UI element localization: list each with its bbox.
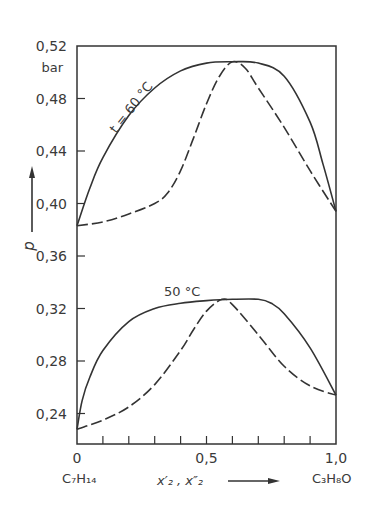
curve-60c-vapour <box>77 61 336 225</box>
y-tick-label: 0,40 <box>36 196 67 212</box>
y-tick-label: 0,48 <box>36 91 67 107</box>
y-tick-label: 0,52 <box>36 38 67 54</box>
y-unit-label: bar <box>41 60 63 75</box>
x-axis-label: x′₂ , x″₂ <box>156 473 280 488</box>
y-tick-label: 0,28 <box>36 353 67 369</box>
axis-ticks <box>77 99 310 445</box>
curve-50c-liquid <box>77 299 336 429</box>
curve-50c-vapour <box>77 299 336 429</box>
annotation-50c: 50 °C <box>164 284 200 299</box>
y-tick-labels: 0,520,480,440,400,360,320,280,24 <box>36 38 67 422</box>
arrowhead-up-icon <box>29 166 35 178</box>
x-tick-label: 1,0 <box>325 450 347 466</box>
curve-60c-liquid <box>77 62 336 226</box>
right-component-label: C₃H₈O <box>312 471 352 486</box>
y-tick-label: 0,24 <box>36 406 67 422</box>
y-axis-title: p <box>20 241 38 252</box>
x-axis-title: x′₂ , x″₂ <box>156 473 203 488</box>
vapor-liquid-equilibrium-chart: 0,520,480,440,400,360,320,280,24 00,51,0… <box>0 0 373 523</box>
left-component-label: C₇H₁₄ <box>62 471 97 486</box>
arrowhead-right-icon <box>268 478 280 484</box>
y-tick-label: 0,36 <box>36 248 67 264</box>
x-tick-labels: 00,51,0 <box>73 450 348 466</box>
plot-frame <box>77 46 336 444</box>
y-tick-label: 0,32 <box>36 301 67 317</box>
y-tick-label: 0,44 <box>36 143 67 159</box>
plot-border <box>77 46 336 444</box>
annotation-60c: t = 60 °C <box>107 79 156 136</box>
x-tick-label: 0 <box>73 450 82 466</box>
x-tick-label: 0,5 <box>195 450 217 466</box>
